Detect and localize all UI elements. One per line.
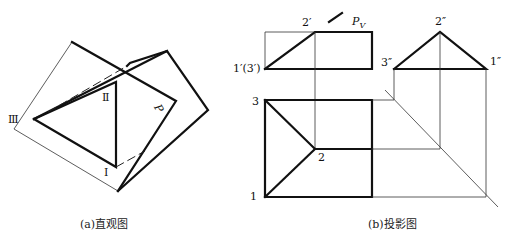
projection-diagram — [0, 0, 509, 242]
vertex-label-I: Ⅰ — [104, 167, 108, 178]
label-3: 3 — [252, 96, 259, 107]
label-2: 2 — [318, 152, 325, 163]
plane-subscript: V — [359, 21, 365, 30]
label-1-3-prime: 1′(3′) — [233, 63, 261, 74]
label-2-prime: 2′ — [302, 17, 312, 28]
pictorial-view — [14, 42, 208, 191]
label-1: 1 — [250, 191, 257, 202]
label-3-double-prime: 3″ — [381, 57, 392, 68]
vertex-label-III: Ⅲ — [8, 114, 19, 125]
caption-a: (a)直观图 — [80, 215, 128, 231]
label-2-double-prime: 2″ — [435, 16, 446, 27]
label-1-double-prime: 1″ — [490, 56, 501, 67]
plane-label-Pv: PV — [352, 16, 365, 30]
projection-views — [265, 13, 498, 207]
vertex-label-II: Ⅱ — [102, 92, 109, 103]
caption-b: (b)投影图 — [368, 215, 417, 231]
